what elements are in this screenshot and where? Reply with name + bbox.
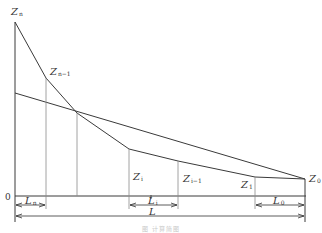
- figure-caption: 图 计算简图: [0, 224, 322, 233]
- straight-line: [15, 93, 305, 179]
- label-ln: Ln: [24, 195, 37, 206]
- profile-polyline: [15, 22, 305, 179]
- label-z0: Z0: [308, 173, 321, 184]
- label-zi-1: Zi−1: [182, 173, 202, 184]
- label-li: Li: [147, 195, 158, 206]
- label-origin: 0: [5, 192, 11, 202]
- label-l-total: L: [148, 206, 156, 217]
- label-l0: L0: [272, 195, 285, 206]
- profile-diagram: Zn Zn−1 Zi Zi−1 Z1 Z0 0 Ln Li L0 L: [0, 0, 322, 233]
- label-z1: Z1: [240, 179, 253, 190]
- label-zn: Zn: [10, 6, 23, 17]
- label-zn-1: Zn−1: [49, 66, 71, 77]
- label-zi: Zi: [132, 171, 143, 182]
